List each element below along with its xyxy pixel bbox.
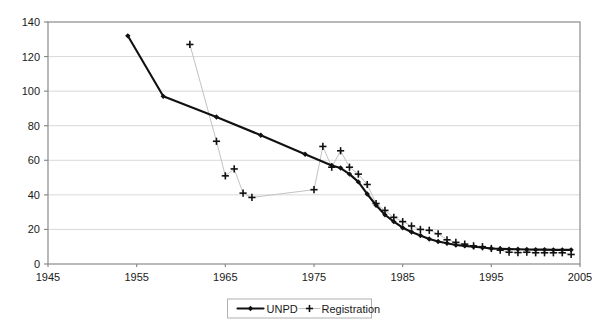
y-tick-label: 80	[28, 120, 40, 132]
x-tick-label: 2005	[568, 271, 592, 283]
y-tick-label: 20	[28, 223, 40, 235]
y-tick-label: 120	[22, 51, 40, 63]
y-tick-label: 0	[34, 258, 40, 270]
y-tick-label: 60	[28, 154, 40, 166]
x-tick-label: 1985	[390, 271, 414, 283]
y-tick-label: 140	[22, 16, 40, 28]
x-tick-label: 1975	[302, 271, 326, 283]
y-tick-label: 100	[22, 85, 40, 97]
chart-background	[0, 0, 599, 328]
x-tick-label: 1955	[124, 271, 148, 283]
x-tick-label: 1945	[36, 271, 60, 283]
y-tick-label: 40	[28, 189, 40, 201]
chart-container: 020406080100120140 194519551965197519851…	[0, 0, 599, 328]
chart-legend: UNPDRegistration	[228, 299, 381, 318]
x-tick-label: 1965	[213, 271, 237, 283]
legend-label-registration: Registration	[322, 303, 381, 315]
x-tick-label: 1995	[479, 271, 503, 283]
legend-label-unpd: UNPD	[267, 303, 298, 315]
line-chart: 020406080100120140 194519551965197519851…	[0, 0, 599, 328]
